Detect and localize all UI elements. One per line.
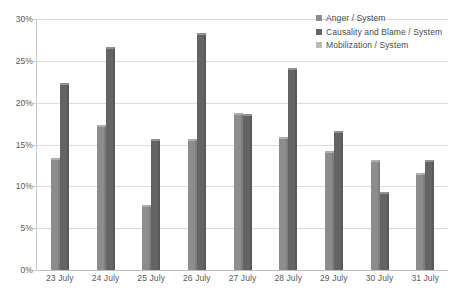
bar-group: [357, 19, 403, 270]
x-axis-tick-label: 25 July: [128, 274, 174, 283]
bar-group: [311, 19, 357, 270]
legend-label: Causality and Blame / System: [326, 28, 442, 37]
gridline: [37, 270, 448, 271]
chart-legend: Anger / SystemCausality and Blame / Syst…: [316, 14, 442, 50]
bar-group: [37, 19, 83, 270]
legend-swatch-causality: [316, 29, 322, 35]
bar: [142, 205, 151, 270]
y-axis-tick-label: 30%: [3, 15, 33, 24]
bar: [243, 114, 252, 270]
legend-swatch-anger: [316, 15, 322, 21]
x-axis-tick-label: 29 July: [311, 274, 357, 283]
x-axis-tick-label: 31 July: [402, 274, 448, 283]
y-axis-tick-mark: [33, 270, 36, 271]
x-axis-tick-label: 24 July: [83, 274, 129, 283]
bar: [106, 47, 115, 270]
legend-label: Anger / System: [326, 14, 386, 23]
x-axis: 23 July24 July25 July26 July27 July28 Ju…: [37, 274, 448, 283]
bar-group: [83, 19, 129, 270]
bar: [97, 125, 106, 270]
x-axis-tick-label: 28 July: [265, 274, 311, 283]
bar-group: [265, 19, 311, 270]
bar: [197, 33, 206, 270]
y-axis-tick-label: 0%: [3, 266, 33, 275]
bar-groups: [37, 19, 448, 270]
legend-item[interactable]: Causality and Blame / System: [316, 28, 442, 37]
bar: [416, 173, 425, 270]
x-axis-tick-label: 26 July: [174, 274, 220, 283]
bar: [288, 68, 297, 270]
bar-chart: 30%25%20%15%10%5%0% 23 July24 July25 Jul…: [0, 0, 456, 301]
legend-item[interactable]: Mobilization / System: [316, 41, 442, 50]
bar: [151, 139, 160, 270]
y-axis-tick-label: 15%: [3, 140, 33, 149]
y-axis-tick-label: 10%: [3, 182, 33, 191]
bar: [380, 192, 389, 270]
bar: [425, 160, 434, 270]
y-axis-tick-label: 25%: [3, 57, 33, 66]
y-axis: 30%25%20%15%10%5%0%: [0, 19, 33, 270]
bar-group: [402, 19, 448, 270]
bar: [371, 160, 380, 270]
bar-group: [128, 19, 174, 270]
legend-swatch-mobilization: [316, 42, 322, 48]
x-axis-tick-label: 30 July: [357, 274, 403, 283]
bar: [51, 158, 60, 270]
bar-group: [174, 19, 220, 270]
x-axis-tick-label: 27 July: [220, 274, 266, 283]
bar: [325, 151, 334, 270]
bar: [188, 139, 197, 270]
bar: [279, 137, 288, 270]
y-axis-tick-label: 5%: [3, 224, 33, 233]
bar: [60, 83, 69, 270]
legend-label: Mobilization / System: [326, 41, 408, 50]
bar: [334, 131, 343, 270]
x-axis-tick-label: 23 July: [37, 274, 83, 283]
legend-item[interactable]: Anger / System: [316, 14, 442, 23]
bar: [234, 113, 243, 270]
y-axis-tick-label: 20%: [3, 98, 33, 107]
bar-group: [220, 19, 266, 270]
